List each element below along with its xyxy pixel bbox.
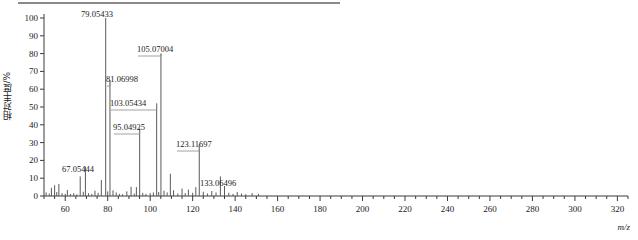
peak-label: 67.05444 [62,164,95,174]
y-tick-label: 40 [29,120,39,130]
x-tick-label: 80 [103,204,113,214]
y-tick-label: 90 [29,31,39,41]
spectrum-canvas: 0102030405060708090100 60801001201401601… [0,0,638,240]
peak-label: 79.05433 [81,9,113,19]
x-tick-label: 140 [228,204,242,214]
y-tick-label: 50 [29,102,39,112]
x-tick-label: 200 [356,204,370,214]
y-tick-label: 30 [29,138,39,148]
y-axis-ticks: 0102030405060708090100 [25,13,45,201]
x-tick-label: 240 [441,204,455,214]
y-tick-label: 20 [29,155,39,165]
peak-label: 81.06998 [106,74,138,84]
x-tick-label: 260 [483,204,497,214]
y-tick-label: 70 [29,66,39,76]
peak-label: 105.07004 [137,44,174,54]
peak-label: 103.05434 [110,98,147,108]
y-tick-label: 0 [34,191,39,201]
x-tick-label: 320 [611,204,625,214]
peak-label: 95.04925 [113,122,145,132]
x-tick-label: 220 [398,204,412,214]
x-tick-label: 120 [186,204,200,214]
x-tick-label: 280 [526,204,540,214]
x-axis-ticks: 6080100120140160180200220240260280300320 [44,196,628,214]
x-tick-label: 100 [143,204,157,214]
x-tick-label: 60 [61,204,71,214]
y-tick-label: 80 [29,49,39,59]
peak-label: 133.06496 [200,178,236,188]
y-tick-label: 100 [25,13,39,23]
peak-labels: 67.0544479.0543381.0699895.04925103.0543… [62,9,236,188]
peak-label: 123.11697 [176,139,212,149]
y-tick-label: 60 [29,84,39,94]
y-tick-label: 10 [29,173,39,183]
x-tick-label: 300 [568,204,582,214]
mass-spectrum-figure: 相对丰度/% m/z 0102030405060708090100 608010… [0,0,638,240]
x-tick-label: 180 [313,204,327,214]
x-tick-label: 160 [271,204,285,214]
